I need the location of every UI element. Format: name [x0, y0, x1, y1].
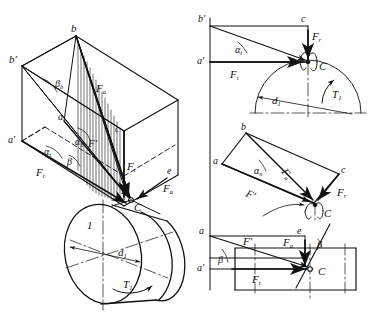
- cylinder-label-T1: T1: [123, 278, 132, 291]
- top-label-Fa: Fa: [282, 236, 293, 249]
- iso-label-alpha-t: αt: [44, 146, 51, 158]
- side-label-c: c: [341, 164, 346, 175]
- side-label-Fprime: F′: [243, 186, 258, 201]
- front-label-Ft: Ft: [229, 68, 239, 81]
- front-label-T1: T1: [332, 88, 341, 101]
- figure-canvas: b b′ a a′ c e C βb αb αt β Fa F′ Ft Fr F…: [0, 0, 378, 321]
- front-label-a-prime: a′: [197, 55, 205, 66]
- top-label-beta2: β: [316, 239, 322, 250]
- front-label-d1: d1: [272, 94, 281, 107]
- iso-label-beta-b: βb: [54, 78, 64, 90]
- iso-label-b-prime: b′: [9, 53, 18, 65]
- iso-label-Ft: Ft: [35, 166, 45, 179]
- iso-label-Fr: Fr: [126, 160, 137, 173]
- view-side: [222, 133, 339, 222]
- iso-label-e: e: [167, 165, 172, 176]
- top-label-Fprime: F′: [242, 235, 253, 247]
- iso-label-Fa: Fa: [95, 82, 106, 95]
- iso-label-a: a: [58, 111, 63, 122]
- front-label-Fr: Fr: [311, 30, 322, 43]
- front-label-b-prime: b′: [198, 13, 206, 24]
- front-label-C: C: [319, 60, 327, 72]
- top-label-a: a: [199, 225, 204, 236]
- cylinder-d1-arrow-left: [70, 247, 103, 254]
- iso-label-beta: β: [66, 156, 72, 167]
- top-label-beta: β: [217, 254, 223, 265]
- side-label-C: C: [324, 207, 332, 219]
- top-label-a-prime: a′: [197, 262, 205, 273]
- iso-box: [22, 36, 178, 206]
- side-label-b: b: [241, 121, 246, 132]
- iso-label-alpha-b: αb: [75, 136, 84, 148]
- front-label-c: c: [301, 13, 306, 24]
- iso-label-c: c: [115, 123, 120, 134]
- iso-label-Fprime: F′: [87, 137, 98, 149]
- front-label-alpha-t: αt: [235, 44, 242, 56]
- iso-label-C: C: [134, 201, 142, 213]
- top-label-C: C: [318, 265, 326, 277]
- iso-force-Fn-vector: [76, 36, 127, 196]
- iso-label-a-prime: a′: [8, 134, 16, 145]
- diagram-svg: b b′ a a′ c e C βb αb αt β Fa F′ Ft Fr F…: [0, 0, 378, 321]
- cylinder-label-1: 1: [87, 219, 93, 231]
- iso-label-Fa2: Fa: [162, 182, 173, 195]
- iso-label-b: b: [71, 22, 77, 34]
- top-label-Ft: Ft: [251, 273, 261, 286]
- side-label-Fr: Fr: [336, 186, 347, 199]
- iso-line-bprime-C: [22, 66, 129, 198]
- top-label-e: e: [297, 225, 302, 236]
- side-label-alpha-n: αn: [254, 165, 263, 177]
- side-label-a: a: [213, 155, 218, 166]
